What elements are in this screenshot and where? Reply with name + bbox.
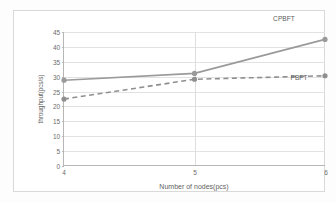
y-tick-label-5: 5 bbox=[56, 148, 60, 155]
data-point-pbft-4 bbox=[61, 97, 66, 102]
y-tick-label-20: 20 bbox=[53, 103, 60, 110]
data-point-pbft-6 bbox=[322, 73, 327, 78]
y-tickmark bbox=[62, 166, 64, 167]
chart-figure: throughput(pcs/s) bbox=[0, 0, 336, 203]
y-tick-label-30: 30 bbox=[53, 73, 60, 80]
y-tick-label-40: 40 bbox=[53, 43, 60, 50]
x-tick-label-5: 5 bbox=[193, 169, 197, 176]
y-tick-label-45: 45 bbox=[53, 29, 60, 36]
series-markers-cpbft bbox=[61, 37, 327, 83]
y-tick-label-35: 35 bbox=[53, 58, 60, 65]
series-annotation-pbft: PBFT bbox=[290, 74, 307, 81]
data-point-pbft-5 bbox=[192, 77, 197, 82]
x-tick-label-6: 6 bbox=[324, 169, 328, 176]
x-tick-label-4: 4 bbox=[62, 169, 66, 176]
data-point-cpbft-4 bbox=[61, 78, 66, 83]
series-annotation-cpbft: CPBFT bbox=[273, 15, 295, 22]
x-axis-label: Number of nodes(pcs) bbox=[159, 183, 228, 190]
data-point-cpbft-5 bbox=[192, 71, 197, 76]
figure-frame: throughput(pcs/s) bbox=[13, 10, 325, 192]
y-tick-label-15: 15 bbox=[53, 118, 60, 125]
series-lines bbox=[64, 32, 325, 165]
data-point-cpbft-6 bbox=[322, 37, 327, 42]
y-tick-label-0: 0 bbox=[56, 163, 60, 170]
y-tick-label-10: 10 bbox=[53, 133, 60, 140]
y-axis-label: throughput(pcs/s) bbox=[37, 75, 44, 124]
plot-area: 45 40 35 30 25 20 15 10 5 0 4 5 6 bbox=[63, 32, 325, 166]
y-tick-label-25: 25 bbox=[53, 88, 60, 95]
